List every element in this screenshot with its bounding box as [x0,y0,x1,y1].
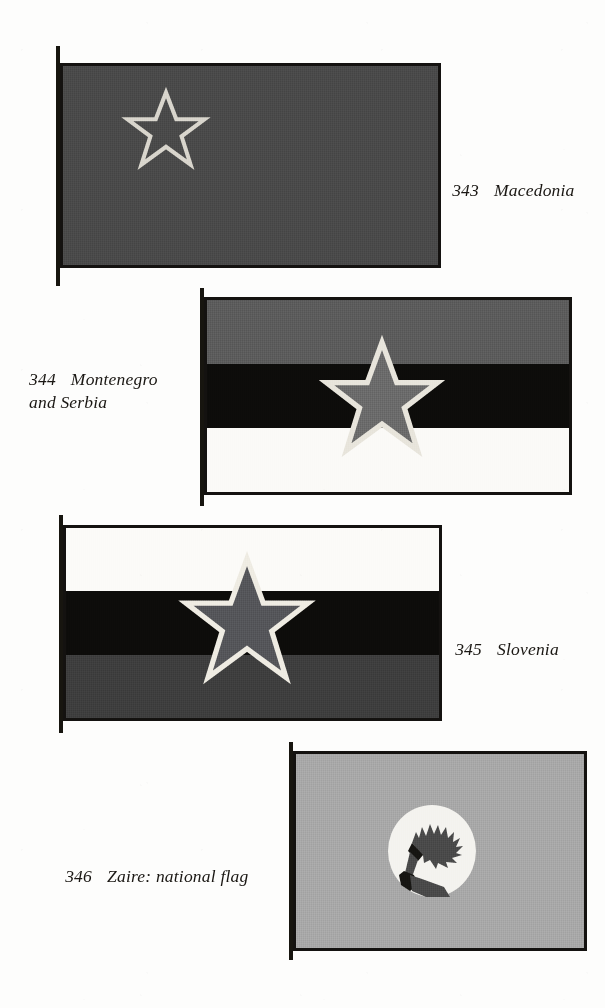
figure-label-344-line1: Montenegro [71,369,158,389]
figure-macedonia [56,46,441,286]
figure-zaire [289,742,587,960]
star-filled-slovenia [182,556,312,684]
caption-macedonia: 343Macedonia [443,156,575,202]
arm-holding-torch-icon [388,805,476,897]
star-outline-macedonia [125,90,207,168]
figure-number-346: 346 [65,866,92,886]
zaire-emblem-disc [388,805,476,897]
flag-macedonia [60,63,441,268]
caption-slovenia: 345Slovenia [446,615,559,661]
flag-zaire [293,751,587,951]
figure-label-343: Macedonia [494,180,575,200]
flag-slovenia [63,525,442,721]
caption-montenegro-and-serbia: 344Montenegro and Serbia [29,368,229,414]
figure-number-343: 343 [452,180,479,200]
caption-zaire: 346Zaire: national flag [56,842,248,888]
figure-number-345: 345 [455,639,482,659]
figure-label-344-line2: and Serbia [29,392,107,412]
figure-montenegro-and-serbia [200,288,572,506]
figure-slovenia [59,515,442,733]
figure-label-345: Slovenia [497,639,559,659]
figure-label-346: Zaire: national flag [107,866,248,886]
figure-number-344: 344 [29,369,56,389]
flag-montenegro-and-serbia [204,297,572,495]
star-filled-montenegro-and-serbia [323,340,441,456]
